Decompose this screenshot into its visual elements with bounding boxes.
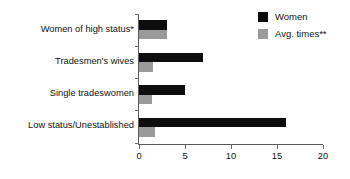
x-axis-tick (231, 145, 232, 149)
y-axis-tick (135, 110, 139, 111)
x-axis-tick-label: 15 (265, 151, 289, 162)
category-label-1: Tradesmen's wives (0, 56, 134, 67)
category-label-0: Women of high status* (0, 24, 134, 35)
bar-3-series-1 (139, 127, 155, 137)
category-label-2: Single tradeswomen (0, 88, 134, 99)
x-axis-tick (277, 145, 278, 149)
bar-1-series-0 (139, 53, 203, 63)
x-axis-tick-label: 10 (219, 151, 243, 162)
plot-area: 05101520 (139, 14, 323, 144)
bar-3-series-0 (139, 118, 286, 128)
bar-2-series-0 (139, 85, 185, 95)
x-axis-tick-label: 5 (173, 151, 197, 162)
y-axis-tick (135, 14, 139, 15)
y-axis-tick (135, 143, 139, 144)
y-axis-tick (135, 78, 139, 79)
x-axis-tick-label: 0 (127, 151, 151, 162)
category-label-3: Low status/Unestablished (0, 120, 134, 131)
x-axis-tick (185, 145, 186, 149)
bar-chart: Women Avg. times** Women of high status*… (0, 0, 350, 179)
x-axis-tick-label: 20 (311, 151, 335, 162)
x-axis-tick (139, 145, 140, 149)
y-axis-tick (135, 46, 139, 47)
bar-2-series-1 (139, 95, 152, 105)
bar-0-series-0 (139, 20, 167, 30)
bar-1-series-1 (139, 62, 153, 72)
category-axis-labels: Women of high status* Tradesmen's wives … (0, 14, 134, 144)
x-axis-tick (323, 145, 324, 149)
bar-0-series-1 (139, 30, 167, 40)
